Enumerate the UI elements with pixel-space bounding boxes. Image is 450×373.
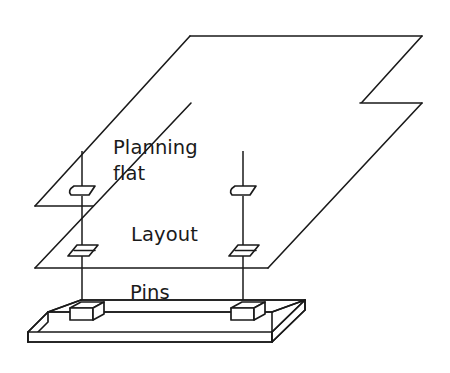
label-planning-flat-line2: flat: [113, 162, 146, 185]
technical-diagram-canvas: Planning flat Layout Pins: [0, 0, 450, 373]
pin-block-right: [231, 302, 265, 320]
base-plate-front-face: [28, 332, 272, 342]
label-pins: Pins: [130, 281, 170, 304]
stackup-illustration: Planning flat Layout Pins: [0, 0, 450, 373]
pin-block-left-front-face: [70, 308, 93, 320]
base-plate-right-bottom-edge: [272, 310, 305, 342]
label-layout: Layout: [131, 223, 198, 246]
pin-block-right-front-face: [231, 308, 254, 320]
label-planning-flat-line1: Planning: [113, 136, 198, 159]
pin-block-left: [70, 302, 104, 320]
